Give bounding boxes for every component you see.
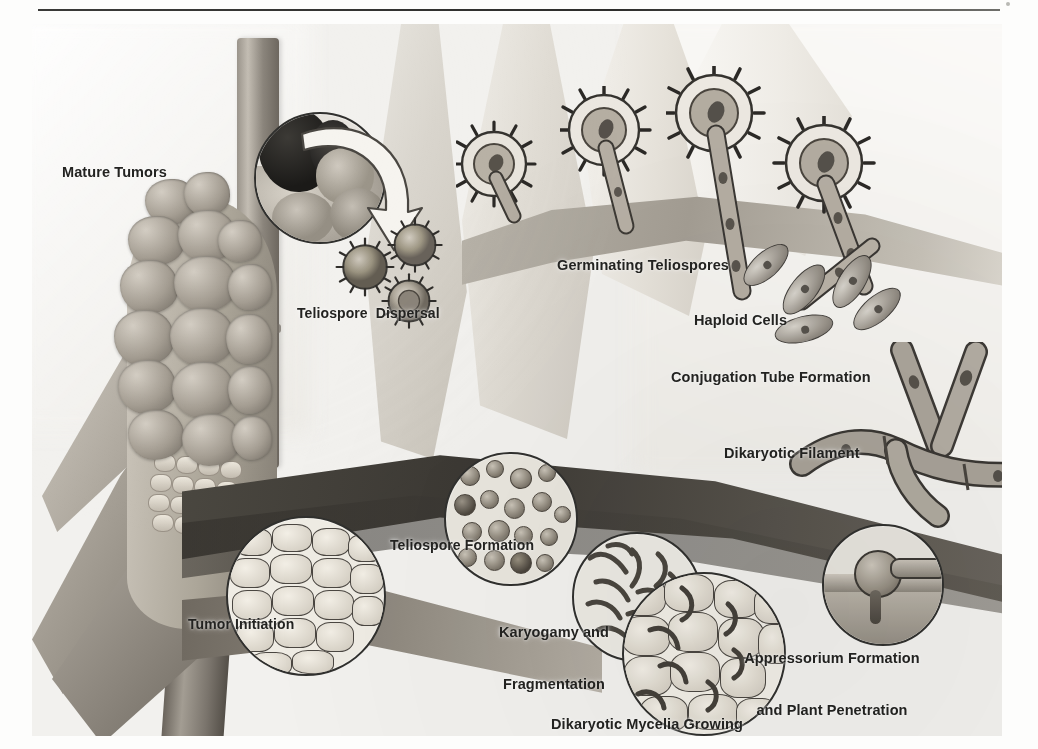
figure-page: Mature Tumors Teliospore Dispersal Germi… [0,0,1038,749]
label-appressorium-formation: Appressorium Formation and Plant Penetra… [712,616,952,736]
label-karyogamy-line-1: Karyogamy and [474,624,634,641]
label-appressorium-line-1: Appressorium Formation [712,650,952,667]
label-conjugation-tube-formation: Conjugation Tube Formation [671,369,871,386]
illustration-plate: Mature Tumors Teliospore Dispersal Germi… [32,24,1002,736]
dispersed-teliospore-3 [378,270,440,332]
label-tumor-initiation: Tumor Initiation [188,616,294,633]
germinating-teliospore-1 [456,120,576,270]
label-teliospore-formation: Teliospore Formation [390,537,534,554]
page-speck-mark [1006,2,1010,6]
label-germinating-teliospores: Germinating Teliospores [557,257,729,274]
label-mature-tumors: Mature Tumors [62,164,167,181]
penetration-hypha [890,558,944,579]
label-appressorium-line-2: and Plant Penetration [712,702,952,719]
inset-tumor-initiation [226,516,386,676]
inset-teliospore-formation [444,452,578,586]
label-haploid-cells: Haploid Cells [694,312,787,329]
dispersed-teliospore-2 [384,214,446,276]
label-teliospore-dispersal: Teliospore Dispersal [297,305,440,322]
label-dikaryotic-filament: Dikaryotic Filament [724,445,860,462]
header-divider-rule [38,9,1000,11]
